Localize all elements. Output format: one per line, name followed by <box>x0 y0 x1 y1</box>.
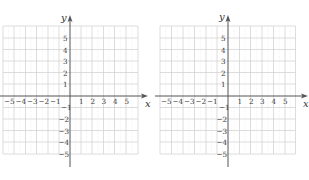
x-tick: −2 <box>196 97 207 106</box>
x-tick: 5 <box>125 97 130 106</box>
x-tick: −3 <box>27 97 38 106</box>
y-tick: −4 <box>59 138 70 147</box>
y-tick: −5 <box>217 150 228 159</box>
y-tick: 4 <box>221 46 226 55</box>
grid-right: y x 5 4 3 2 1 −1 −2 −3 −4 −5 −5 −4 −3 −2… <box>155 0 309 180</box>
x-tick: 3 <box>260 97 265 106</box>
coordinate-plane-right: y x 5 4 3 2 1 −1 −2 −3 −4 −5 −5 −4 −3 −2… <box>155 0 309 180</box>
y-tick: −1 <box>219 103 230 112</box>
y-tick: −4 <box>217 138 228 147</box>
x-tick: −5 <box>4 97 15 106</box>
y-tick: 3 <box>63 57 68 66</box>
x-tick: 4 <box>272 97 277 106</box>
x-tick: −4 <box>173 97 184 106</box>
x-tick: −4 <box>16 97 27 106</box>
y-tick: −3 <box>59 127 70 136</box>
y-tick: −5 <box>59 150 70 159</box>
y-tick: 5 <box>63 34 68 43</box>
y-tick: 1 <box>221 80 226 89</box>
x-axis-label: x <box>145 98 151 109</box>
x-tick: −1 <box>207 97 218 106</box>
x-tick: 1 <box>238 97 243 106</box>
y-axis-label: y <box>218 11 225 22</box>
y-tick: −3 <box>217 127 228 136</box>
x-tick: 4 <box>113 97 118 106</box>
x-tick: −3 <box>184 97 195 106</box>
grid-left: y x 5 4 3 2 1 −1 −2 −3 −4 −5 −5 −4 −3 −2… <box>0 0 155 180</box>
y-tick: 1 <box>63 80 68 89</box>
coordinate-plane-left: y x 5 4 3 2 1 −1 −2 −3 −4 −5 −5 −4 −3 −2… <box>0 0 155 180</box>
x-tick: 2 <box>249 97 254 106</box>
x-tick: 1 <box>79 97 84 106</box>
y-tick: 4 <box>63 46 68 55</box>
y-tick: 3 <box>221 57 226 66</box>
x-tick: −1 <box>50 97 61 106</box>
x-tick: −5 <box>161 97 172 106</box>
x-tick: −2 <box>39 97 50 106</box>
x-axis-label: x <box>303 98 309 109</box>
x-tick: 5 <box>283 97 288 106</box>
y-tick: −1 <box>61 103 72 112</box>
y-tick: −2 <box>217 115 228 124</box>
y-tick: 5 <box>221 34 226 43</box>
x-tick: 2 <box>91 97 96 106</box>
y-axis-label: y <box>60 12 67 23</box>
x-tick: 3 <box>102 97 107 106</box>
y-tick: 2 <box>221 69 226 78</box>
y-tick: −2 <box>59 115 70 124</box>
y-tick: 2 <box>63 69 68 78</box>
